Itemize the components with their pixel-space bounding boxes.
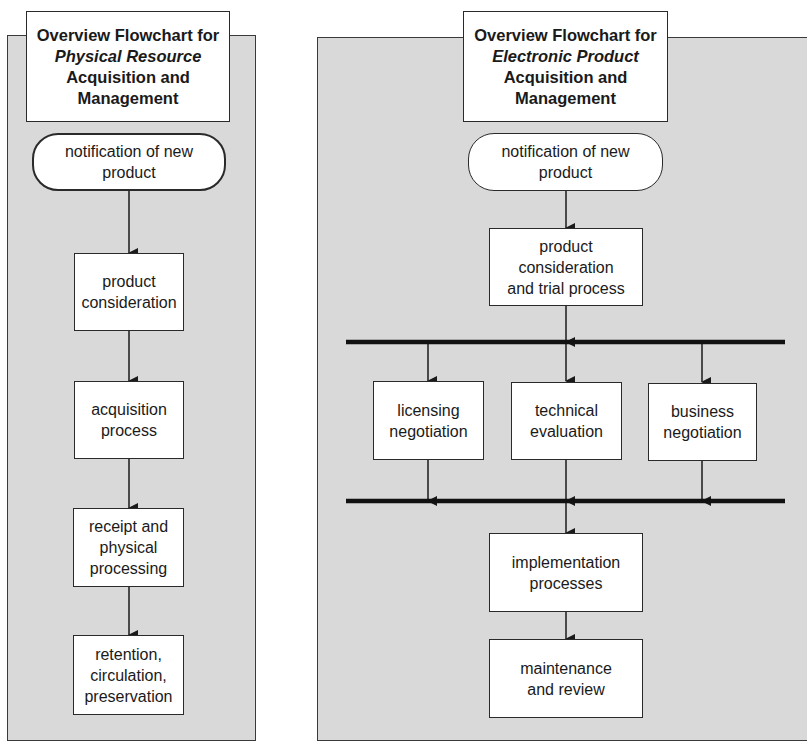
step-label: business negotiation [663,401,741,443]
left-title-line2: Physical Resource [27,46,229,67]
step-label: licensing negotiation [389,400,467,442]
left-start-node: notification of new product [32,133,226,191]
left-start-label: notification of new product [65,141,193,183]
right-step-business-negotiation: business negotiation [648,383,757,461]
left-title-line4: Management [27,88,229,109]
right-start-label: notification of new product [501,141,629,183]
step-label: receipt and physical processing [89,516,168,579]
step-label: retention, circulation, preservation [84,644,172,707]
left-step-product-consideration: product consideration [74,253,184,331]
left-step-acquisition-process: acquisition process [74,381,184,459]
left-step-receipt-processing: receipt and physical processing [73,508,184,587]
left-title-line1: Overview Flowchart for [27,25,229,46]
step-label: implementation processes [512,552,621,594]
step-label: product consideration and trial process [507,236,624,299]
right-step-maintenance: maintenance and review [489,639,643,718]
step-label: technical evaluation [530,400,603,442]
right-title-line3: Acquisition and [464,67,667,88]
right-step-licensing-negotiation: licensing negotiation [373,381,484,460]
right-step-implementation: implementation processes [489,533,643,612]
right-title-line4: Management [464,88,667,109]
right-step-trial-process: product consideration and trial process [489,228,643,306]
left-title-line3: Acquisition and [27,67,229,88]
right-title-line1: Overview Flowchart for [464,25,667,46]
right-start-node: notification of new product [468,133,663,191]
right-chart-title: Overview Flowchart for Electronic Produc… [463,11,668,122]
step-label: maintenance and review [520,658,612,700]
step-label: acquisition process [91,399,167,441]
right-title-line2: Electronic Product [464,46,667,67]
right-step-technical-evaluation: technical evaluation [511,382,622,460]
step-label: product consideration [81,271,176,313]
left-step-retention: retention, circulation, preservation [73,635,184,715]
left-chart-title: Overview Flowchart for Physical Resource… [26,11,230,122]
